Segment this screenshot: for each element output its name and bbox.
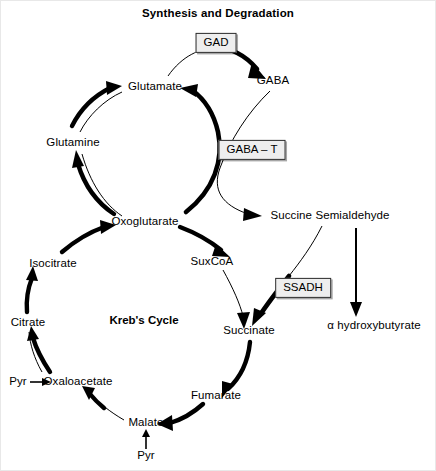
- metabolite-pyruvate-malate: Pyr: [137, 450, 155, 462]
- metabolite-glutamine: Glutamine: [46, 137, 99, 149]
- arrow-suxcoa-to-succinate: [223, 270, 250, 329]
- enzyme-box-ssadh[interactable]: SSADH: [275, 278, 331, 298]
- arrow-fumarate-to-malate: [157, 404, 203, 431]
- arrow-glutamate-to-glutamine: [80, 92, 122, 132]
- metabolite-glutamate: Glutamate: [128, 81, 182, 93]
- arrow-oxoglutarate-to-glutamate: [180, 84, 220, 212]
- arrow-oxoglutarate-to-suxcoa: [180, 227, 230, 257]
- arrow-pyr-to-malate: [142, 429, 150, 449]
- arrow-citrate-to-isocitrate: [26, 266, 38, 312]
- metabolite-fumarate: Fumarate: [191, 390, 241, 402]
- arrow-ssa-to-hydroxybutyrate: [350, 228, 362, 317]
- enzyme-box-gad[interactable]: GAD: [196, 33, 237, 53]
- metabolite-gaba: GABA: [257, 75, 289, 87]
- arrow-isocitrate-to-oxoglutarate: [62, 220, 116, 252]
- metabolite-malate: Malate: [128, 417, 163, 429]
- metabolite-succinate: Succinate: [223, 325, 274, 337]
- metabolite-oxoglutarate: Oxoglutarate: [111, 216, 178, 228]
- enzyme-box-gaba-t[interactable]: GABA – T: [219, 140, 286, 160]
- page-title: Synthesis and Degradation: [142, 7, 294, 19]
- metabolite-alpha-hydroxybutyrate: α hydroxybutyrate: [327, 320, 420, 332]
- metabolite-isocitrate: Isocitrate: [29, 258, 77, 270]
- krebs-cycle-caption: Kreb's Cycle: [109, 314, 178, 326]
- metabolite-suxcoa: SuxCoA: [191, 256, 234, 268]
- metabolite-succinic-semialdehyde: Succine Semialdehyde: [271, 210, 390, 222]
- arrow-ssa-to-succinate: [252, 226, 322, 326]
- metabolite-oxaloacetate: Oxaloacetate: [44, 376, 113, 388]
- pathway-diagram: Synthesis and Degradation Kreb's Cycle G…: [0, 0, 436, 471]
- metabolite-citrate: Citrate: [11, 317, 46, 329]
- arrow-glutamine-arc-to-glutamate: [72, 81, 122, 126]
- arrow-malate-to-oxaloacetate: [82, 386, 124, 420]
- metabolite-pyruvate-oxaloacetate: Pyr: [9, 376, 27, 388]
